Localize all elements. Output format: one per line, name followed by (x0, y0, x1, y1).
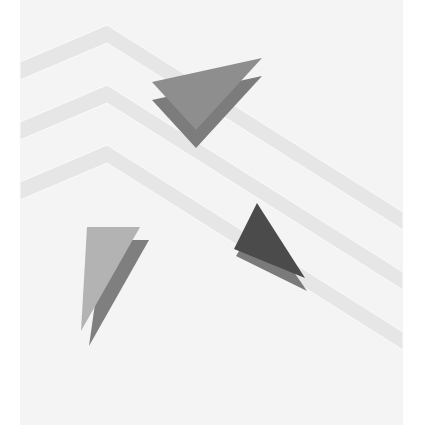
abstract-geometric-illustration (0, 0, 429, 443)
